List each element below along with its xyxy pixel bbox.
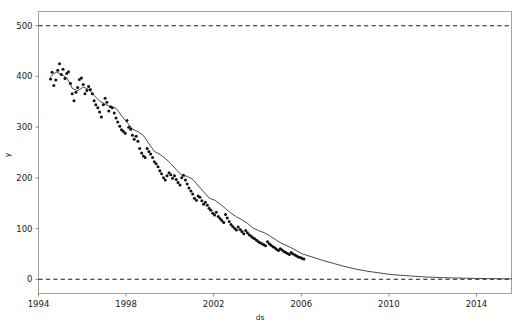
observed-data-point [105,101,108,104]
observed-data-point [54,78,57,81]
y-axis-label: y [3,152,12,157]
observed-data-point [155,162,158,165]
observed-data-point [113,111,116,114]
observed-data-point [76,86,79,89]
observed-data-point [158,169,161,172]
observed-data-point [93,99,96,102]
observed-data-point [91,92,94,95]
observed-data-point [82,83,85,86]
x-tick-label: 1998 [115,299,137,309]
observed-data-point [224,213,227,216]
observed-data-point [169,173,172,176]
observed-data-point [149,153,152,156]
observed-data-point [175,178,178,181]
observed-data-point [102,103,105,106]
observed-data-point [60,73,63,76]
observed-data-point [213,213,216,216]
observed-data-point [195,199,198,202]
y-tick-label: 400 [16,71,32,81]
observed-data-point [131,134,134,137]
x-tick-label: 1994 [28,299,50,309]
y-tick-label: 300 [16,122,32,132]
observed-data-point [242,232,245,235]
observed-data-point [104,97,107,100]
observed-data-point [80,76,83,79]
prophet-forecast-chart: 0100200300400500 19941998200220062010201… [0,0,522,328]
observed-data-point [171,177,174,180]
observed-data-point [164,178,167,181]
observed-data-point [209,209,212,212]
observed-data-point [94,103,97,106]
observed-data-point [204,201,207,204]
observed-data-point [176,181,179,184]
observed-data-point [51,71,54,74]
observed-data-point [62,68,65,71]
x-tick-label: 2010 [378,299,400,309]
observed-data-point [89,88,92,91]
observed-data-point [173,174,176,177]
observed-data-point [182,174,185,177]
observed-data-point [264,244,267,247]
x-axis: 199419982002200620102014 [28,294,488,309]
y-tick-label: 200 [16,173,32,183]
observed-data-point [85,89,88,92]
y-tick-label: 100 [16,224,32,234]
observed-data-point [166,174,169,177]
observed-data-point [74,91,77,94]
observed-data-point [56,69,59,72]
observed-data-point [157,165,160,168]
observed-data-point [151,156,154,159]
observed-data-point [144,156,147,159]
observed-data-point [100,116,103,119]
observed-data-point [140,152,143,155]
observed-data-point [200,199,203,202]
observed-data-point [180,176,183,179]
observed-data-point [67,70,70,73]
observed-data-point [198,196,201,199]
observed-data-point [118,125,121,128]
x-tick-label: 2014 [466,299,488,309]
x-tick-label: 2002 [203,299,225,309]
x-axis-label: ds [256,313,265,322]
observed-data-point [133,138,136,141]
chart-figure: 0100200300400500 19941998200220062010201… [0,0,522,328]
observed-data-point [146,147,149,150]
observed-data-point [237,226,240,229]
observed-data-point [71,92,74,95]
observed-data-point [124,132,127,135]
observed-data-point [58,62,61,65]
observed-points-group [49,62,305,260]
y-tick-label: 0 [27,274,32,284]
observed-data-point [115,117,118,120]
observed-data-point [178,183,181,186]
x-tick-label: 2006 [290,299,312,309]
observed-data-point [187,187,190,190]
observed-data-point [189,190,192,193]
observed-data-point [129,128,132,131]
observed-data-point [72,99,75,102]
observed-data-point [184,178,187,181]
observed-data-point [228,220,231,223]
observed-data-point [136,140,139,143]
observed-data-point [98,110,101,113]
plot-frame [39,12,512,294]
observed-data-point [87,85,90,88]
observed-data-point [83,92,86,95]
observed-data-point [222,221,225,224]
observed-data-point [52,84,55,87]
observed-data-point [226,216,229,219]
observed-data-point [69,82,72,85]
observed-data-point [147,150,150,153]
observed-data-point [191,193,194,196]
observed-data-point [116,121,119,124]
observed-data-point [186,182,189,185]
observed-data-point [64,77,67,80]
observed-data-point [215,211,218,214]
observed-data-point [135,135,138,138]
observed-data-point [235,229,238,232]
observed-data-point [111,106,114,109]
observed-data-point [107,109,110,112]
y-axis: 0100200300400500 [16,21,38,285]
observed-data-point [138,147,141,150]
observed-data-point [125,119,128,122]
